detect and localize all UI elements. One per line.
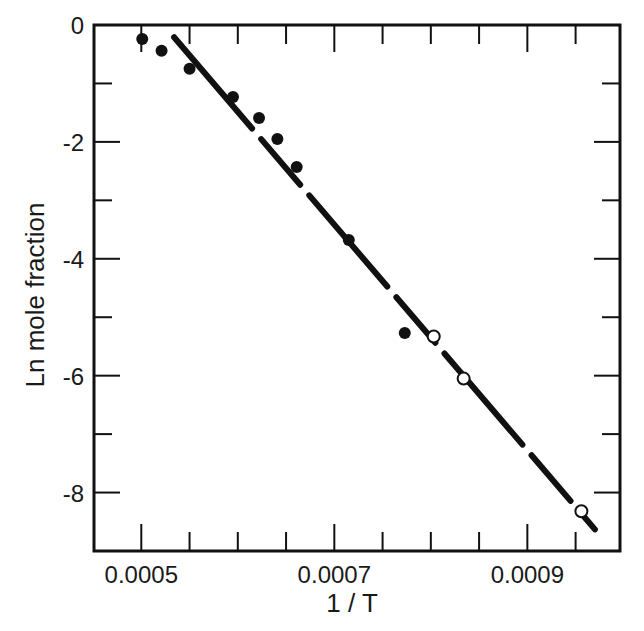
open-data-point (428, 331, 440, 343)
filled-data-point (227, 91, 239, 103)
fit-line-segment (174, 37, 595, 529)
y-tick-label: -6 (63, 363, 84, 390)
filled-data-point (156, 45, 168, 57)
plot-border (94, 25, 620, 551)
fit-line (174, 37, 595, 529)
chart: 0.00050.00070.0009 0-2-4-6-8 1 / T Ln mo… (0, 0, 644, 631)
filled-data-point (253, 112, 265, 124)
filled-data-point (184, 63, 196, 75)
y-tick-label: -4 (63, 246, 84, 273)
y-tick-label: -2 (63, 129, 84, 156)
filled-data-point (291, 161, 303, 173)
y-tick-labels: 0-2-4-6-8 (63, 12, 84, 507)
x-tick-label: 0.0007 (298, 561, 371, 588)
plot-frame (94, 25, 620, 551)
filled-data-point (343, 234, 355, 246)
y-tick-label: -8 (63, 480, 84, 507)
axis-ticks (94, 25, 620, 551)
filled-data-point (399, 327, 411, 339)
x-tick-label: 0.0009 (491, 561, 564, 588)
filled-data-point (136, 33, 148, 45)
open-data-point (575, 505, 587, 517)
filled-data-point (271, 133, 283, 145)
open-data-point (458, 373, 470, 385)
x-tick-label: 0.0005 (105, 561, 178, 588)
y-tick-label: 0 (71, 12, 84, 39)
x-axis-label: 1 / T (326, 588, 378, 618)
y-axis-label: Ln mole fraction (20, 203, 50, 388)
x-tick-labels: 0.00050.00070.0009 (105, 561, 564, 588)
